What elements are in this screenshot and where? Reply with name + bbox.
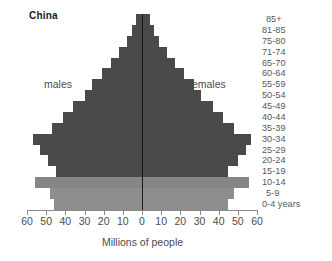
age-group-label: 50-54 [262,90,332,101]
bar-male [56,166,142,177]
x-axis-tick-label: 10 [117,215,129,227]
bar-male [73,101,142,112]
bar-female [142,199,228,210]
age-group-labels: 85+81-8575-8071-7465-7060-6455-5950-5445… [262,14,332,210]
bar-male [54,199,142,210]
bar-female [142,145,246,156]
age-group-label: 40-44 [262,112,332,123]
age-group-label: 0-4 years [262,199,332,210]
x-axis-tick-label: 20 [174,215,186,227]
bar-male [102,68,142,79]
bar-female [142,134,251,145]
x-axis-tick-label: 50 [232,215,244,227]
bar-male [52,123,142,134]
bar-female [142,188,234,199]
bar-female [142,25,154,36]
x-axis-title: Millions of people [0,236,285,248]
x-axis-tick-label: 60 [251,215,263,227]
plot-area [27,14,257,210]
bar-female [142,36,159,47]
bar-male [50,188,142,199]
legend-label-males: males [44,78,72,90]
age-group-label: 81-85 [262,25,332,36]
bar-female [142,155,238,166]
age-group-label: 5-9 [262,188,332,199]
age-group-label: 65-70 [262,58,332,69]
age-group-label: 45-49 [262,101,332,112]
age-group-label: 30-34 [262,134,332,145]
population-pyramid-chart: China males females 60504030201001020304… [0,0,332,261]
bar-female [142,101,213,112]
x-axis-tick-label: 40 [59,215,71,227]
bar-female [142,58,175,69]
age-group-label: 20-24 [262,155,332,166]
bar-female [142,14,150,25]
bar-male [35,177,142,188]
x-axis-tick-label: 60 [21,215,33,227]
x-axis-tick-label: 10 [155,215,167,227]
legend-label-females: females [189,78,226,90]
bar-male [85,90,143,101]
bar-female [142,112,223,123]
bar-female [142,90,201,101]
bar-female [142,68,184,79]
age-group-label: 60-64 [262,68,332,79]
bar-male [48,155,142,166]
age-group-label: 15-19 [262,166,332,177]
bar-male [111,58,142,69]
age-group-label: 71-74 [262,47,332,58]
x-axis-tick-label: 0 [139,215,145,227]
x-axis-tick-label: 20 [98,215,110,227]
bar-male [119,47,142,58]
x-axis-tick-label: 30 [194,215,206,227]
age-group-label: 35-39 [262,123,332,134]
age-group-label: 55-59 [262,79,332,90]
bar-male [63,112,142,123]
bar-female [142,123,234,134]
bar-male [127,36,142,47]
x-axis-tick-label: 30 [79,215,91,227]
age-group-label: 10-14 [262,177,332,188]
bar-male [40,145,142,156]
bar-female [142,79,194,90]
bar-female [142,47,167,58]
bar-male [132,25,142,36]
age-group-label: 85+ [262,14,332,25]
bar-male [92,79,142,90]
bar-male [33,134,142,145]
age-group-label: 25-29 [262,145,332,156]
x-axis-tick-label: 40 [213,215,225,227]
age-group-label: 75-80 [262,36,332,47]
bar-female [142,166,228,177]
zero-axis-line [142,14,143,210]
bar-female [142,177,249,188]
x-axis-tick-label: 50 [40,215,52,227]
